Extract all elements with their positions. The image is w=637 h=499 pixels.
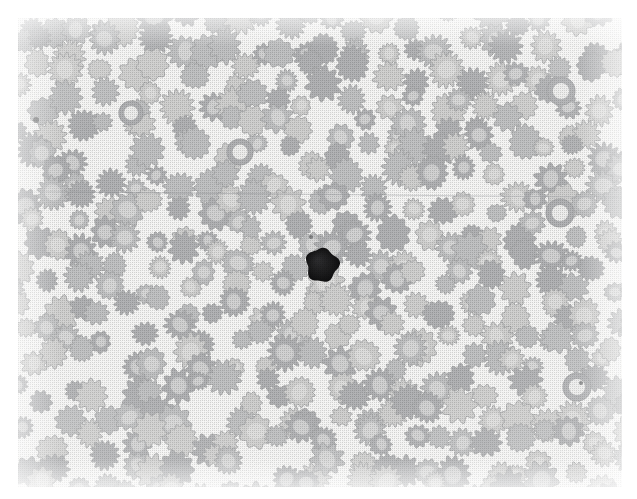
blood-smear-field <box>18 18 622 487</box>
image-caption <box>0 0 1 1</box>
photomicrograph-viewer <box>0 0 637 499</box>
photo-plate <box>18 18 622 487</box>
